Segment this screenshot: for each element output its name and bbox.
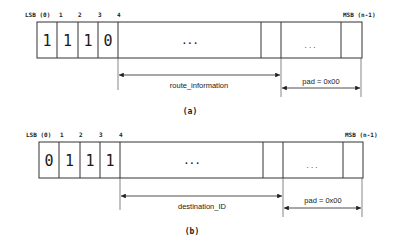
- bit-index-2: 2: [78, 11, 82, 18]
- ellipsis-pad: . . .: [304, 41, 315, 50]
- diagram-a: LSB (0) 1 2 3 4 MSB (n-1) 1 1 1 0 . . . …: [25, 11, 376, 116]
- bit-1: 1: [65, 152, 74, 170]
- ellipsis-pad: . . .: [306, 161, 317, 170]
- caption: (b): [185, 227, 199, 236]
- bit-index-1: 1: [60, 131, 64, 138]
- diagram-b: LSB (0) 1 2 3 4 MSB (n-1) 0 1 1 1 . . . …: [26, 131, 378, 236]
- bit-0: 0: [44, 152, 53, 170]
- bit-index-4: 4: [119, 131, 123, 138]
- diagram-canvas: LSB (0) 1 2 3 4 MSB (n-1) 1 1 1 0 . . . …: [0, 0, 399, 246]
- msb-label: MSB (n-1): [343, 11, 376, 18]
- bit-index-3: 3: [98, 11, 102, 18]
- bit-3: 0: [103, 32, 112, 50]
- field-label: route_information: [170, 81, 228, 90]
- bit-index-1: 1: [59, 11, 63, 18]
- bit-index-2: 2: [79, 131, 83, 138]
- bit-index-3: 3: [99, 131, 103, 138]
- pad-label: pad = 0x00: [302, 77, 339, 86]
- bit-index-4: 4: [117, 11, 121, 18]
- bit-0: 1: [42, 32, 51, 50]
- msb-label: MSB (n-1): [345, 131, 378, 138]
- caption: (a): [183, 107, 197, 116]
- field-label: destination_ID: [178, 202, 227, 211]
- pad-label: pad = 0x00: [304, 196, 341, 205]
- lsb-label: LSB (0): [25, 11, 50, 18]
- lsb-label: LSB (0): [26, 131, 51, 138]
- ellipsis-main: . . .: [185, 155, 199, 166]
- ellipsis-main: . . .: [183, 35, 197, 46]
- bit-2: 1: [83, 32, 92, 50]
- bit-3: 1: [105, 152, 114, 170]
- bit-1: 1: [63, 32, 72, 50]
- bit-2: 1: [85, 152, 94, 170]
